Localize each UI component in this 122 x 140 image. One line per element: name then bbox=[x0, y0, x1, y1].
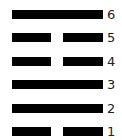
line-number: 1 bbox=[107, 123, 115, 140]
line-number: 5 bbox=[107, 29, 115, 46]
broken-line-left bbox=[12, 33, 51, 42]
line-4: 4 bbox=[0, 57, 122, 66]
broken-line-left bbox=[12, 127, 51, 136]
solid-line bbox=[12, 80, 103, 89]
broken-line-right bbox=[63, 127, 103, 136]
broken-line-right bbox=[63, 33, 103, 42]
line-number: 4 bbox=[107, 53, 115, 70]
line-2: 2 bbox=[0, 104, 122, 113]
broken-line-left bbox=[12, 57, 51, 66]
line-6: 6 bbox=[0, 10, 122, 19]
broken-line-right bbox=[63, 57, 103, 66]
line-number: 2 bbox=[107, 100, 115, 117]
line-1: 1 bbox=[0, 127, 122, 136]
line-number: 3 bbox=[107, 76, 115, 93]
solid-line bbox=[12, 10, 103, 19]
line-number: 6 bbox=[107, 6, 115, 23]
line-5: 5 bbox=[0, 33, 122, 42]
solid-line bbox=[12, 104, 103, 113]
line-3: 3 bbox=[0, 80, 122, 89]
